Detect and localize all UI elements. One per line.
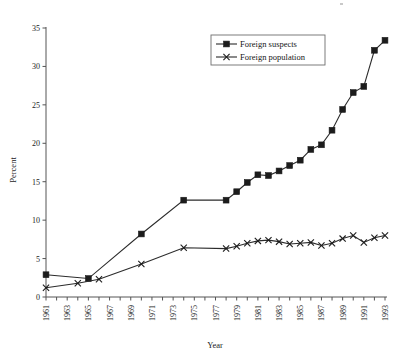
x-tick-label: 1969 xyxy=(127,305,136,321)
x-axis-title: Year xyxy=(207,340,223,350)
data-point-marker xyxy=(329,127,335,133)
x-tick-label: 1979 xyxy=(233,305,242,321)
data-point-marker xyxy=(287,163,293,169)
x-tick-label: 1989 xyxy=(339,305,348,321)
y-axis-title: Percent xyxy=(8,157,18,183)
chart-container: 05101520253035 1961196319651967196919711… xyxy=(0,0,412,358)
y-tick-label: 15 xyxy=(32,178,40,187)
x-tick-label: 1963 xyxy=(63,305,72,321)
data-point-marker xyxy=(361,84,367,90)
y-tick-label: 10 xyxy=(32,216,40,225)
x-tick-label: 1971 xyxy=(148,305,157,321)
data-point-marker xyxy=(276,168,282,174)
data-point-marker xyxy=(138,231,144,237)
x-tick-label: 1983 xyxy=(275,305,284,321)
data-point-marker xyxy=(43,272,49,278)
x-tick-label: 1977 xyxy=(212,305,221,321)
scan-speck xyxy=(340,3,343,5)
chart-background xyxy=(0,0,412,358)
data-point-marker xyxy=(372,47,378,53)
x-tick-label: 1967 xyxy=(106,305,115,321)
chart-legend: Foreign suspectsForeign population xyxy=(211,35,325,65)
x-tick-label: 1991 xyxy=(360,305,369,321)
legend-marker-square-icon xyxy=(224,41,230,47)
y-tick-label: 20 xyxy=(32,139,40,148)
data-point-marker xyxy=(350,90,356,96)
x-tick-label: 1973 xyxy=(169,305,178,321)
data-point-marker xyxy=(255,172,261,178)
data-point-marker xyxy=(297,157,303,163)
legend-label: Foreign suspects xyxy=(240,39,297,49)
data-point-marker xyxy=(266,173,272,179)
data-point-marker xyxy=(223,197,229,203)
x-tick-label: 1987 xyxy=(317,305,326,321)
legend-label: Foreign population xyxy=(240,52,306,62)
x-tick-label: 1975 xyxy=(190,305,199,321)
data-point-marker xyxy=(340,107,346,113)
x-tick-label: 1985 xyxy=(296,305,305,321)
data-point-marker xyxy=(244,180,250,186)
x-tick-label: 1993 xyxy=(381,305,390,321)
data-point-marker xyxy=(382,37,388,43)
line-chart: 05101520253035 1961196319651967196919711… xyxy=(0,0,412,358)
data-point-marker xyxy=(234,189,240,195)
y-tick-label: 35 xyxy=(32,24,40,33)
x-tick-label: 1961 xyxy=(42,305,51,321)
data-point-marker xyxy=(181,197,187,203)
x-tick-label: 1965 xyxy=(84,305,93,321)
data-point-marker xyxy=(319,142,325,148)
data-point-marker xyxy=(308,147,314,153)
y-tick-label: 5 xyxy=(36,255,40,264)
y-tick-label: 30 xyxy=(32,62,40,71)
y-tick-label: 0 xyxy=(36,293,40,302)
x-tick-label: 1981 xyxy=(254,305,263,321)
y-tick-label: 25 xyxy=(32,101,40,110)
